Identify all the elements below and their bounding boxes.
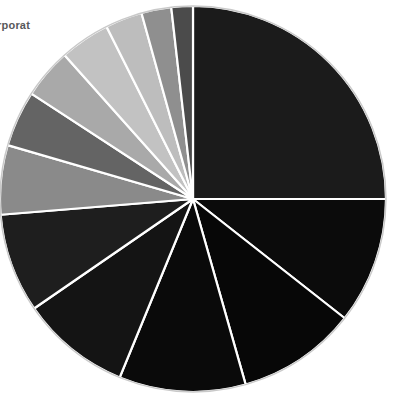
pie-chart-svg xyxy=(0,0,394,403)
chart-canvas: Corporat xyxy=(0,0,394,403)
pie-slice-group xyxy=(0,6,386,392)
pie-chart xyxy=(0,0,394,403)
pie-slice xyxy=(193,6,386,199)
